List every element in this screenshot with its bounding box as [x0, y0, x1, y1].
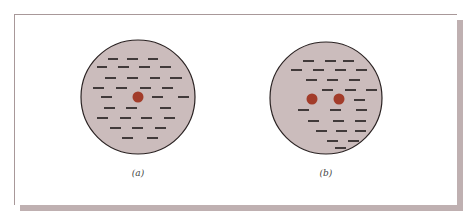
atom-b: [270, 42, 382, 154]
nucleus-icon: [307, 94, 318, 105]
atom-a: [81, 40, 195, 154]
label-a: (a): [132, 168, 144, 178]
atom-diagram: [0, 0, 470, 221]
atom-sphere: [270, 42, 382, 154]
nucleus-icon: [133, 92, 144, 103]
nucleus-icon: [334, 94, 345, 105]
label-b: (b): [320, 168, 333, 178]
